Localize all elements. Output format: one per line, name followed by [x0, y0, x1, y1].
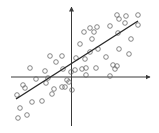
data-point — [108, 74, 113, 79]
data-point — [136, 13, 141, 18]
data-point — [92, 30, 97, 35]
data-point — [60, 54, 65, 59]
data-point — [95, 25, 100, 30]
data-point — [136, 23, 141, 28]
data-point — [88, 26, 93, 31]
data-point — [52, 87, 57, 92]
data-point — [54, 60, 59, 65]
data-point — [108, 24, 113, 29]
data-point — [40, 99, 45, 104]
data-point — [90, 37, 95, 42]
data-point — [78, 42, 83, 47]
data-point — [82, 30, 87, 35]
regression-line — [16, 21, 138, 99]
data-point — [117, 47, 122, 52]
data-point — [25, 113, 30, 118]
data-point — [50, 92, 55, 97]
data-point — [18, 106, 23, 111]
data-point — [123, 21, 128, 26]
data-point — [63, 85, 68, 90]
data-points — [15, 13, 141, 121]
data-point — [104, 55, 109, 60]
data-point — [127, 52, 132, 57]
data-point — [83, 57, 88, 62]
data-point — [43, 69, 48, 74]
scatter-chart — [0, 0, 159, 133]
data-point — [129, 37, 134, 42]
data-point — [16, 116, 21, 121]
data-point — [94, 66, 99, 71]
data-point — [28, 66, 33, 71]
data-point — [30, 100, 35, 105]
data-point — [117, 17, 122, 22]
data-point — [124, 14, 129, 19]
data-point — [48, 54, 53, 59]
